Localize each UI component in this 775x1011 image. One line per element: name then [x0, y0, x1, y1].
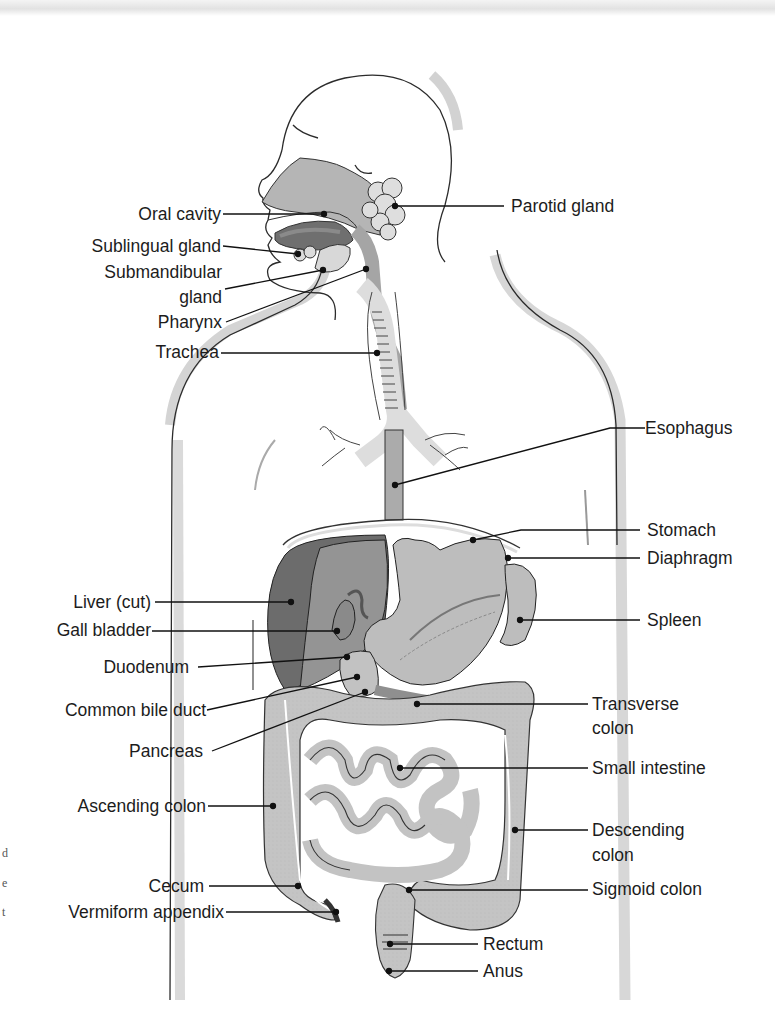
label-cecum: Cecum [149, 876, 204, 896]
label-parotid-gland: Parotid gland [511, 196, 614, 216]
label-duodenum: Duodenum [103, 657, 189, 677]
edge-fragment: d [2, 846, 8, 861]
label-common-bile-duct: Common bile duct [65, 700, 206, 720]
esophagus-shape [385, 430, 403, 520]
digestive-system-illustration [0, 0, 775, 1011]
label-descending-colon-line2: colon [592, 845, 634, 865]
label-anus: Anus [483, 961, 523, 981]
label-ascending-colon: Ascending colon [78, 796, 206, 816]
label-pancreas: Pancreas [129, 741, 203, 761]
label-transverse-colon-line2: colon [592, 718, 634, 738]
label-spleen: Spleen [647, 610, 702, 630]
label-descending-colon-line1: Descending [592, 820, 684, 840]
label-sigmoid-colon: Sigmoid colon [592, 879, 702, 899]
label-vermiform-appendix: Vermiform appendix [68, 902, 224, 922]
label-diaphragm: Diaphragm [647, 548, 733, 568]
label-liver: Liver (cut) [73, 592, 151, 612]
label-stomach: Stomach [647, 520, 716, 540]
label-gall-bladder: Gall bladder [57, 620, 151, 640]
edge-fragment: t [2, 905, 5, 920]
label-transverse-colon-line1: Transverse [592, 694, 679, 714]
label-trachea: Trachea [155, 342, 219, 362]
label-esophagus: Esophagus [645, 418, 733, 438]
label-sublingual-gland: Sublingual gland [92, 236, 221, 256]
rectum-shape [375, 884, 415, 978]
edge-fragment: e [2, 876, 7, 891]
small-intestine-shape [310, 748, 472, 876]
label-oral-cavity: Oral cavity [138, 204, 221, 224]
label-pharynx: Pharynx [158, 312, 222, 332]
spleen-shape [500, 564, 536, 646]
label-rectum: Rectum [483, 934, 543, 954]
label-submandibular-gland-line1: Submandibular [104, 262, 222, 282]
label-small-intestine: Small intestine [592, 758, 706, 778]
label-submandibular-gland-line2: gland [179, 287, 222, 307]
